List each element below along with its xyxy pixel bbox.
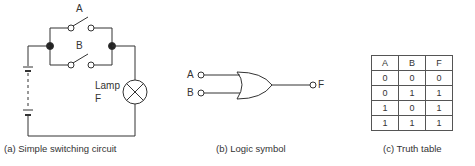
table-row: 0 1 1: [372, 86, 453, 101]
table-row: 1 1 1: [372, 116, 453, 131]
lamp-label: Lamp: [95, 80, 120, 91]
cell: 1: [372, 101, 399, 116]
cell: 1: [372, 116, 399, 131]
header-b: B: [399, 56, 426, 71]
cell: 1: [399, 116, 426, 131]
table-row: 0 0 0: [372, 71, 453, 86]
switching-circuit: [23, 17, 147, 136]
header-f: F: [426, 56, 453, 71]
cell: 0: [399, 71, 426, 86]
or-gate-symbol: [198, 72, 316, 99]
cell: 1: [399, 86, 426, 101]
truth-table: A B F 0 0 0 0 1 1 1 0 1 1 1 1: [371, 55, 453, 131]
cell: 1: [426, 101, 453, 116]
truth-table-caption: (c) Truth table: [383, 143, 442, 154]
input-a-label: A: [187, 69, 194, 80]
input-b-label: B: [187, 87, 194, 98]
cell: 0: [426, 71, 453, 86]
cell: 1: [426, 116, 453, 131]
cell: 0: [399, 101, 426, 116]
switch-a-label: A: [76, 3, 83, 14]
switch-b-label: B: [76, 40, 83, 51]
table-row: 1 0 1: [372, 101, 453, 116]
cell: 0: [372, 86, 399, 101]
logic-caption: (b) Logic symbol: [216, 143, 286, 154]
table-header-row: A B F: [372, 56, 453, 71]
header-a: A: [372, 56, 399, 71]
output-f-label: F: [318, 79, 324, 90]
lamp-f-label: F: [95, 93, 101, 104]
circuit-caption: (a) Simple switching circuit: [4, 143, 116, 154]
cell: 1: [426, 86, 453, 101]
cell: 0: [372, 71, 399, 86]
